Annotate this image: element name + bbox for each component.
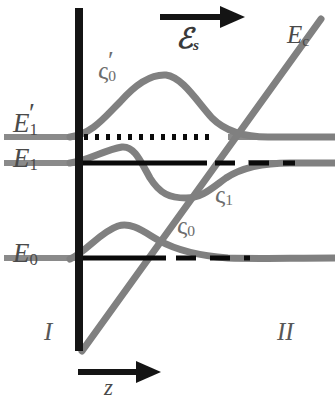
region-label-right: II: [277, 319, 294, 344]
field-arrow: [160, 6, 245, 28]
level-label-E1-prime: E1′: [13, 110, 44, 139]
conduction-band-label: Ec: [287, 22, 309, 48]
curve-zeta0: [70, 225, 335, 259]
curve-zeta1: [70, 147, 335, 198]
z-axis-label: z: [104, 376, 113, 399]
field-label: ℰs: [176, 25, 199, 53]
region-label-left: I: [44, 319, 52, 344]
z-axis-arrow: [78, 361, 161, 383]
curve-label-zeta1: ς1: [215, 182, 233, 208]
wavefunction-curves: [70, 75, 335, 259]
level-label-E1: E1: [13, 145, 38, 174]
energy-band-diagram: ℰs Ec ς0′ ς1 ς0 E1′ E1 E0 I II z: [0, 0, 335, 402]
level-label-E0: E0: [13, 240, 38, 269]
curve-label-zeta0: ς0: [177, 213, 195, 239]
curve-label-zeta0prime: ς0′: [98, 58, 122, 84]
